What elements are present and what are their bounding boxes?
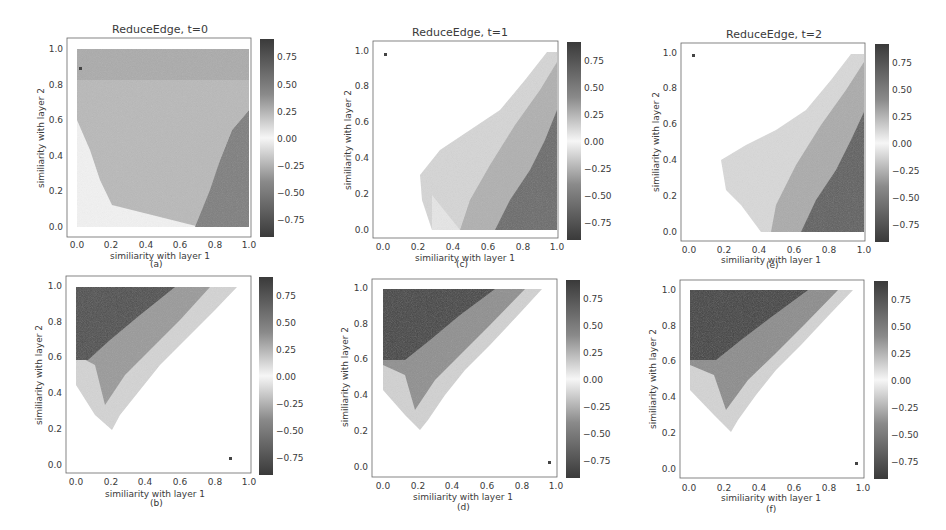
panel-sublabel: (f) [766, 504, 776, 514]
svg-text:0.2: 0.2 [104, 240, 118, 250]
svg-text:0.2: 0.2 [717, 483, 731, 493]
svg-text:0.0: 0.0 [69, 477, 84, 487]
svg-text:0.2: 0.2 [662, 428, 676, 438]
svg-text:0.8: 0.8 [516, 242, 531, 252]
svg-text:−0.75: −0.75 [584, 218, 612, 228]
svg-text:0.00: 0.00 [276, 372, 296, 382]
y-axis-label: similiarity with layer 2 [648, 329, 658, 429]
svg-text:0.2: 0.2 [48, 424, 62, 434]
svg-text:1.0: 1.0 [663, 48, 678, 58]
panel-f: 0.0 0.2 0.4 0.6 0.8 1.0 0.0 0.2 0.4 0.6 … [626, 265, 946, 530]
svg-text:0.6: 0.6 [173, 240, 188, 250]
svg-text:0.75: 0.75 [892, 58, 912, 68]
svg-text:−0.75: −0.75 [892, 220, 920, 230]
svg-text:0.4: 0.4 [138, 477, 153, 487]
colorbar [259, 277, 273, 475]
y-axis-label: similiarity with layer 2 [651, 92, 661, 192]
svg-text:0.00: 0.00 [584, 137, 604, 147]
svg-text:0.0: 0.0 [70, 240, 85, 250]
svg-text:0.8: 0.8 [208, 477, 223, 487]
svg-text:0.0: 0.0 [662, 464, 677, 474]
panel-title: ReduceEdge, t=1 [412, 26, 508, 39]
svg-text:0.6: 0.6 [48, 352, 63, 362]
svg-text:0.8: 0.8 [822, 245, 837, 255]
heatmap-f: 0.0 0.2 0.4 0.6 0.8 1.0 0.0 0.2 0.4 0.6 … [626, 265, 946, 530]
svg-text:−0.75: −0.75 [583, 456, 611, 466]
svg-text:0.2: 0.2 [411, 242, 425, 252]
svg-text:0.6: 0.6 [662, 356, 677, 366]
svg-text:0.4: 0.4 [445, 481, 460, 491]
colorbar [875, 44, 889, 242]
panel-sublabel: (b) [150, 498, 163, 508]
svg-text:0.4: 0.4 [49, 151, 64, 161]
svg-text:0.2: 0.2 [411, 481, 425, 491]
svg-text:0.8: 0.8 [208, 240, 223, 250]
svg-text:−0.75: −0.75 [276, 453, 304, 463]
svg-text:0.4: 0.4 [663, 155, 678, 165]
svg-text:0.75: 0.75 [584, 56, 604, 66]
svg-text:0.0: 0.0 [682, 245, 697, 255]
svg-text:−0.25: −0.25 [584, 164, 612, 174]
panel-sublabel: (d) [457, 502, 470, 512]
y-ticks: 0.0 0.2 0.4 0.6 0.8 1.0 [49, 44, 64, 232]
svg-text:0.50: 0.50 [276, 318, 296, 328]
y-axis-label: similiarity with layer 2 [340, 327, 350, 427]
svg-text:−0.75: −0.75 [891, 457, 919, 467]
svg-text:0.6: 0.6 [173, 477, 188, 487]
panel-c: ReduceEdge, t=1 0.0 0.2 0.4 0.6 0.8 1.0 … [310, 0, 626, 265]
svg-text:0.00: 0.00 [891, 376, 911, 386]
svg-text:0.6: 0.6 [49, 115, 64, 125]
svg-text:1.0: 1.0 [355, 46, 370, 56]
x-ticks: 0.0 0.2 0.4 0.6 0.8 1.0 [70, 240, 257, 250]
svg-text:1.0: 1.0 [662, 285, 677, 295]
svg-text:−0.50: −0.50 [892, 193, 920, 203]
svg-text:0.8: 0.8 [48, 317, 63, 327]
svg-text:−0.50: −0.50 [891, 430, 919, 440]
svg-text:−0.50: −0.50 [276, 426, 304, 436]
svg-text:0.75: 0.75 [583, 294, 603, 304]
svg-text:0.2: 0.2 [104, 477, 118, 487]
svg-text:−0.50: −0.50 [277, 188, 305, 198]
svg-text:0.0: 0.0 [376, 481, 391, 491]
colorbar-ticks: 0.75 0.50 0.25 0.00 −0.25 −0.50 −0.75 [277, 52, 305, 225]
heatmap-a: ReduceEdge, t=0 0.0 0.2 0.4 0.6 0.8 1.0 … [0, 0, 315, 265]
svg-text:0.50: 0.50 [891, 322, 911, 332]
svg-text:0.4: 0.4 [752, 245, 767, 255]
svg-text:−0.25: −0.25 [583, 402, 611, 412]
panel-title: ReduceEdge, t=2 [726, 28, 822, 41]
svg-text:0.6: 0.6 [480, 481, 495, 491]
svg-text:0.0: 0.0 [663, 227, 678, 237]
svg-text:0.75: 0.75 [277, 52, 297, 62]
colorbar [566, 280, 580, 478]
svg-text:0.0: 0.0 [49, 222, 64, 232]
svg-text:1.0: 1.0 [49, 44, 64, 54]
svg-text:−0.50: −0.50 [584, 191, 612, 201]
svg-text:0.2: 0.2 [49, 186, 63, 196]
heatmap-c: ReduceEdge, t=1 0.0 0.2 0.4 0.6 0.8 1.0 … [310, 0, 626, 265]
svg-text:0.6: 0.6 [663, 119, 678, 129]
svg-text:0.0: 0.0 [682, 483, 697, 493]
svg-text:0.0: 0.0 [355, 225, 370, 235]
svg-text:0.0: 0.0 [48, 460, 63, 470]
panel-a: ReduceEdge, t=0 0.0 0.2 0.4 0.6 0.8 1.0 … [0, 0, 315, 265]
svg-text:0.2: 0.2 [355, 189, 369, 199]
y-axis-label: similiarity with layer 2 [36, 88, 46, 188]
svg-text:0.00: 0.00 [583, 375, 603, 385]
svg-text:0.8: 0.8 [662, 321, 677, 331]
svg-text:0.25: 0.25 [892, 112, 912, 122]
svg-text:−0.75: −0.75 [277, 215, 305, 225]
svg-text:1.0: 1.0 [242, 240, 257, 250]
svg-text:−0.25: −0.25 [276, 399, 304, 409]
heatmap-e: ReduceEdge, t=2 0.0 0.2 0.4 0.6 0.8 1.0 … [626, 0, 946, 265]
svg-text:1.0: 1.0 [48, 281, 63, 291]
svg-text:0.50: 0.50 [277, 80, 297, 90]
svg-text:0.25: 0.25 [276, 345, 296, 355]
svg-text:0.6: 0.6 [787, 483, 802, 493]
svg-text:0.8: 0.8 [49, 80, 64, 90]
svg-text:1.0: 1.0 [550, 242, 565, 252]
svg-text:0.2: 0.2 [663, 191, 677, 201]
panel-e: ReduceEdge, t=2 0.0 0.2 0.4 0.6 0.8 1.0 … [626, 0, 946, 265]
colorbar [874, 281, 888, 479]
svg-text:0.6: 0.6 [481, 242, 496, 252]
svg-text:−0.25: −0.25 [892, 166, 920, 176]
